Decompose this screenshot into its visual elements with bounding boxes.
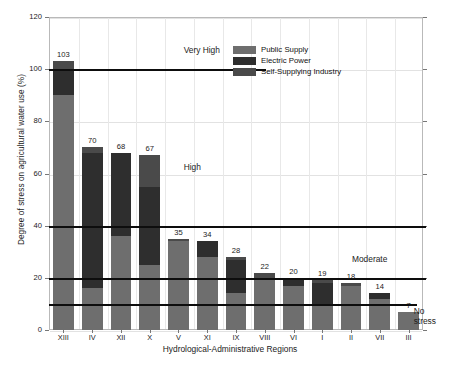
gridline-vertical bbox=[165, 18, 166, 329]
zone-label: High bbox=[184, 162, 201, 172]
legend-swatch-public-supply bbox=[233, 46, 256, 54]
legend-item: Self-Supplying Industry bbox=[233, 66, 341, 77]
bar-XI[interactable] bbox=[197, 17, 218, 330]
stacked-bar-chart: Degree of stress on agricultural water u… bbox=[0, 0, 456, 372]
bar-segment bbox=[283, 286, 304, 330]
x-tick-mark bbox=[265, 330, 266, 333]
bar-segment bbox=[53, 95, 74, 330]
y-tick-mark-right bbox=[423, 330, 427, 331]
bar-V[interactable] bbox=[168, 17, 189, 330]
bar-segment bbox=[341, 286, 362, 330]
bar-IV[interactable] bbox=[82, 17, 103, 330]
y-tick-label: 60 bbox=[2, 169, 42, 178]
bar-segment bbox=[82, 153, 103, 289]
x-tick-mark bbox=[322, 330, 323, 333]
y-tick-mark-right bbox=[423, 17, 427, 18]
bar-segment bbox=[82, 147, 103, 152]
legend-item: Public Supply bbox=[233, 44, 341, 55]
bar-segment bbox=[53, 61, 74, 69]
x-tick-mark bbox=[380, 330, 381, 333]
bar-segment bbox=[226, 257, 247, 260]
x-tick-mark bbox=[207, 330, 208, 333]
bar-XIII[interactable] bbox=[53, 17, 74, 330]
threshold-line bbox=[49, 304, 417, 306]
bar-segment bbox=[111, 153, 132, 236]
legend: Public Supply Electric Power Self-Supply… bbox=[233, 44, 341, 77]
bar-value-label: 28 bbox=[216, 246, 256, 255]
x-tick-mark bbox=[351, 330, 352, 333]
bar-segment bbox=[283, 280, 304, 285]
bar-segment bbox=[226, 293, 247, 330]
threshold-line bbox=[49, 226, 426, 228]
x-tick-mark bbox=[92, 330, 93, 333]
bar-segment bbox=[197, 257, 218, 330]
bar-XII[interactable] bbox=[111, 17, 132, 330]
y-tick-mark bbox=[45, 121, 49, 122]
bar-value-label: 14 bbox=[360, 282, 400, 291]
legend-swatch-self-supplying-industry bbox=[233, 68, 256, 76]
bar-value-label: 18 bbox=[331, 272, 371, 281]
bar-segment bbox=[111, 236, 132, 330]
x-tick-mark bbox=[409, 330, 410, 333]
bar-segment bbox=[168, 239, 189, 242]
x-axis-title: Hydrological-Administrative Regions bbox=[40, 344, 420, 354]
zone-label-line: stress bbox=[414, 316, 436, 327]
y-tick-mark-right bbox=[423, 69, 427, 70]
y-tick-label: 80 bbox=[2, 116, 42, 125]
bar-segment bbox=[341, 283, 362, 286]
bar-segment bbox=[369, 293, 390, 298]
bar-segment bbox=[197, 241, 218, 257]
bar-segment bbox=[82, 288, 103, 330]
y-tick-mark bbox=[45, 17, 49, 18]
bar-value-label: 7 bbox=[389, 301, 429, 310]
x-tick-mark bbox=[63, 330, 64, 333]
zone-label: Moderate bbox=[352, 254, 387, 264]
y-tick-mark-right bbox=[423, 174, 427, 175]
gridline-vertical bbox=[194, 18, 195, 329]
x-tick-mark bbox=[236, 330, 237, 333]
y-tick-label: 20 bbox=[2, 273, 42, 282]
gridline-vertical bbox=[223, 18, 224, 329]
y-tick-mark bbox=[45, 174, 49, 175]
bar-segment bbox=[168, 241, 189, 330]
bar-value-label: 103 bbox=[43, 50, 83, 59]
bar-value-label: 67 bbox=[130, 144, 170, 153]
zone-label: Very High bbox=[184, 45, 220, 55]
bar-II[interactable] bbox=[341, 17, 362, 330]
legend-label-self-supplying-industry: Self-Supplying Industry bbox=[261, 67, 341, 76]
bar-III[interactable] bbox=[398, 17, 419, 330]
bar-segment bbox=[312, 283, 333, 304]
y-tick-label: 40 bbox=[2, 221, 42, 230]
x-tick-mark bbox=[121, 330, 122, 333]
x-tick-mark bbox=[178, 330, 179, 333]
bar-segment bbox=[312, 280, 333, 283]
x-tick-mark bbox=[150, 330, 151, 333]
bar-value-label: 34 bbox=[187, 230, 227, 239]
legend-label-public-supply: Public Supply bbox=[261, 45, 308, 54]
bar-segment bbox=[312, 304, 333, 330]
y-axis-title: Degree of stress on agricultural water u… bbox=[17, 45, 26, 275]
gridline-vertical bbox=[79, 18, 80, 329]
gridline-vertical bbox=[108, 18, 109, 329]
bar-segment bbox=[139, 155, 160, 186]
y-tick-label: 0 bbox=[2, 325, 42, 334]
x-tick-label: III bbox=[389, 333, 429, 342]
bar-segment bbox=[226, 260, 247, 294]
gridline-vertical bbox=[136, 18, 137, 329]
y-tick-mark-right bbox=[423, 121, 427, 122]
bar-segment bbox=[53, 69, 74, 95]
legend-swatch-electric-power bbox=[233, 57, 256, 65]
bar-segment bbox=[139, 265, 160, 330]
bar-X[interactable] bbox=[139, 17, 160, 330]
x-tick-mark bbox=[294, 330, 295, 333]
legend-item: Electric Power bbox=[233, 55, 341, 66]
legend-label-electric-power: Electric Power bbox=[261, 56, 311, 65]
y-tick-label: 120 bbox=[2, 12, 42, 21]
y-tick-label: 100 bbox=[2, 64, 42, 73]
y-tick-mark bbox=[45, 330, 49, 331]
